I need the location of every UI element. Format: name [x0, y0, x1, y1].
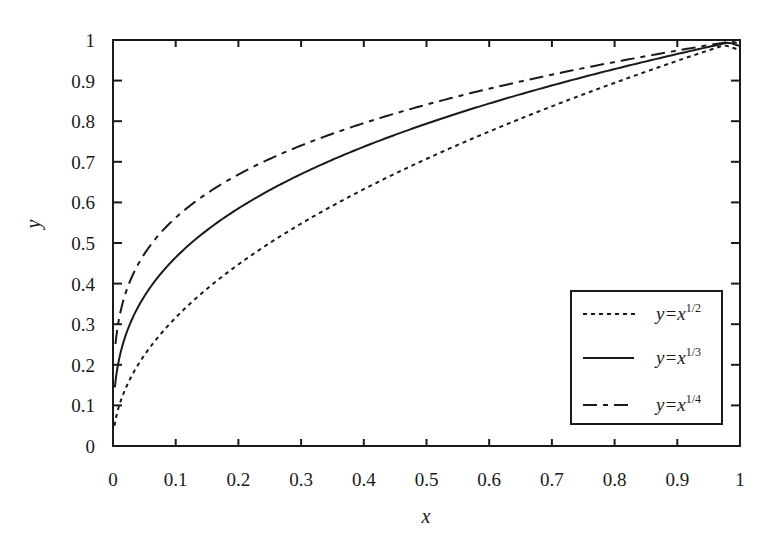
y-tick-label: 0.8 [71, 111, 95, 132]
x-axis-title: x [421, 505, 431, 527]
x-tick-label: 1 [735, 469, 745, 490]
x-tick-label: 0.8 [603, 469, 627, 490]
y-tick-label: 1 [86, 30, 96, 51]
x-tick-label: 0.3 [289, 469, 313, 490]
y-tick-label: 0.6 [71, 192, 95, 213]
x-tick-label: 0.5 [415, 469, 439, 490]
x-tick-label: 0.2 [227, 469, 251, 490]
line-chart: 00.10.20.30.40.50.60.70.80.91 00.10.20.3… [0, 0, 778, 553]
x-tick-label: 0.1 [164, 469, 188, 490]
y-tick-label: 0.4 [71, 274, 95, 295]
y-tick-label: 0.1 [71, 395, 95, 416]
y-tick-label: 0.3 [71, 314, 95, 335]
y-tick-label: 0.2 [71, 355, 95, 376]
x-tick-label: 0.7 [540, 469, 564, 490]
x-tick-label: 0.4 [352, 469, 376, 490]
y-axis-title: y [22, 219, 45, 230]
y-tick-label: 0 [86, 436, 96, 457]
x-tick-label: 0.6 [477, 469, 501, 490]
y-tick-label: 0.7 [71, 152, 95, 173]
y-tick-labels: 00.10.20.30.40.50.60.70.80.91 [71, 30, 95, 457]
x-tick-label: 0.9 [665, 469, 689, 490]
legend: y=x1/2 y=x1/3 y=x1/4 [571, 291, 722, 424]
y-tick-label: 0.5 [71, 233, 95, 254]
y-tick-label: 0.9 [71, 71, 95, 92]
x-tick-labels: 00.10.20.30.40.50.60.70.80.91 [108, 469, 745, 490]
x-tick-label: 0 [108, 469, 118, 490]
